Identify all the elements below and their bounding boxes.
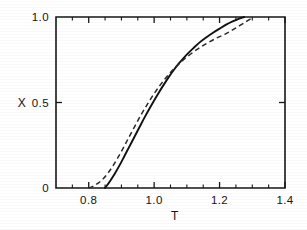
axis-frame	[56, 17, 285, 188]
series-solid-curve	[105, 17, 244, 188]
data-curves	[89, 17, 253, 188]
figure-canvas: 0.81.01.21.4 00.51.0 T X	[0, 0, 307, 230]
x-tick-label: 1.2	[211, 194, 228, 206]
x-tick-label: 0.8	[80, 194, 97, 206]
y-tick-label: 1.0	[32, 11, 49, 23]
y-tick-label: 0.5	[32, 97, 49, 109]
chart-svg: 0.81.01.21.4 00.51.0 T X	[0, 0, 307, 230]
y-axis-title: X	[18, 96, 27, 110]
plot-frame	[56, 17, 285, 188]
x-axis-title: T	[171, 209, 179, 223]
x-tick-label: 1.4	[276, 194, 293, 206]
x-axis-major-ticks	[89, 17, 285, 188]
x-axis-minor-ticks	[72, 17, 268, 188]
y-axis-tick-labels: 00.51.0	[32, 11, 49, 194]
series-dashed-curve	[89, 18, 253, 188]
x-axis-tick-labels: 0.81.01.21.4	[80, 194, 294, 206]
y-tick-label: 0	[42, 182, 49, 194]
x-tick-label: 1.0	[146, 194, 163, 206]
